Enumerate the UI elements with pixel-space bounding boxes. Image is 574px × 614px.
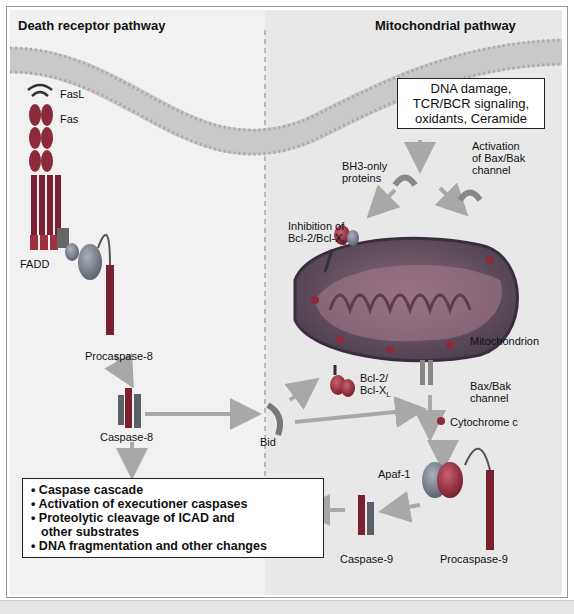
fadd-label: FADD	[20, 258, 49, 270]
outcome-item-3: • Proteolytic cleavage of ICAD and	[31, 511, 315, 525]
mitochondrion-label: Mitochondrion	[470, 335, 539, 347]
fas-label: Fas	[60, 113, 78, 125]
bax-activation-label: Activationof Bax/Bakchannel	[472, 140, 525, 176]
stimuli-box: DNA damage, TCR/BCR signaling, oxidants,…	[397, 78, 545, 129]
cytochrome-c-dot	[437, 417, 445, 425]
cytochrome-c-label: Cytochrome c	[450, 416, 518, 428]
outcome-item-2: • Activation of executioner caspases	[31, 497, 315, 511]
bh3-label: BH3-onlyproteins	[342, 160, 387, 184]
apaf1-label: Apaf-1	[378, 468, 410, 480]
procaspase9-label: Procaspase-9	[440, 553, 508, 565]
fasl-label: FasL	[60, 88, 84, 100]
stimuli-line-2: TCR/BCR signaling,	[398, 96, 544, 111]
outcome-box: • Caspase cascade • Activation of execut…	[22, 478, 324, 558]
stimuli-line-3: oxidants, Ceramide	[398, 111, 544, 126]
stimuli-line-1: DNA damage,	[398, 81, 544, 96]
death-receptor-title: Death receptor pathway	[18, 18, 165, 33]
caspase9-label: Caspase-9	[340, 553, 393, 565]
bax-channel-label: Bax/Bakchannel	[470, 380, 511, 404]
bcl2-label: Bcl-2/ Bcl-XL	[360, 372, 391, 401]
bcl-inhibition-label: Inhibition of Bcl-2/Bcl-XL	[288, 220, 347, 249]
bottom-bar	[0, 600, 574, 614]
outcome-item-1: • Caspase cascade	[31, 483, 315, 497]
bid-label: Bid	[260, 436, 276, 448]
mitochondrial-title: Mitochondrial pathway	[375, 18, 516, 33]
outcome-item-4: other substrates	[31, 525, 315, 539]
outcome-item-5: • DNA fragmentation and other changes	[31, 539, 315, 553]
procaspase8-label: Procaspase-8	[85, 350, 153, 362]
caspase8-label: Caspase-8	[100, 431, 153, 443]
